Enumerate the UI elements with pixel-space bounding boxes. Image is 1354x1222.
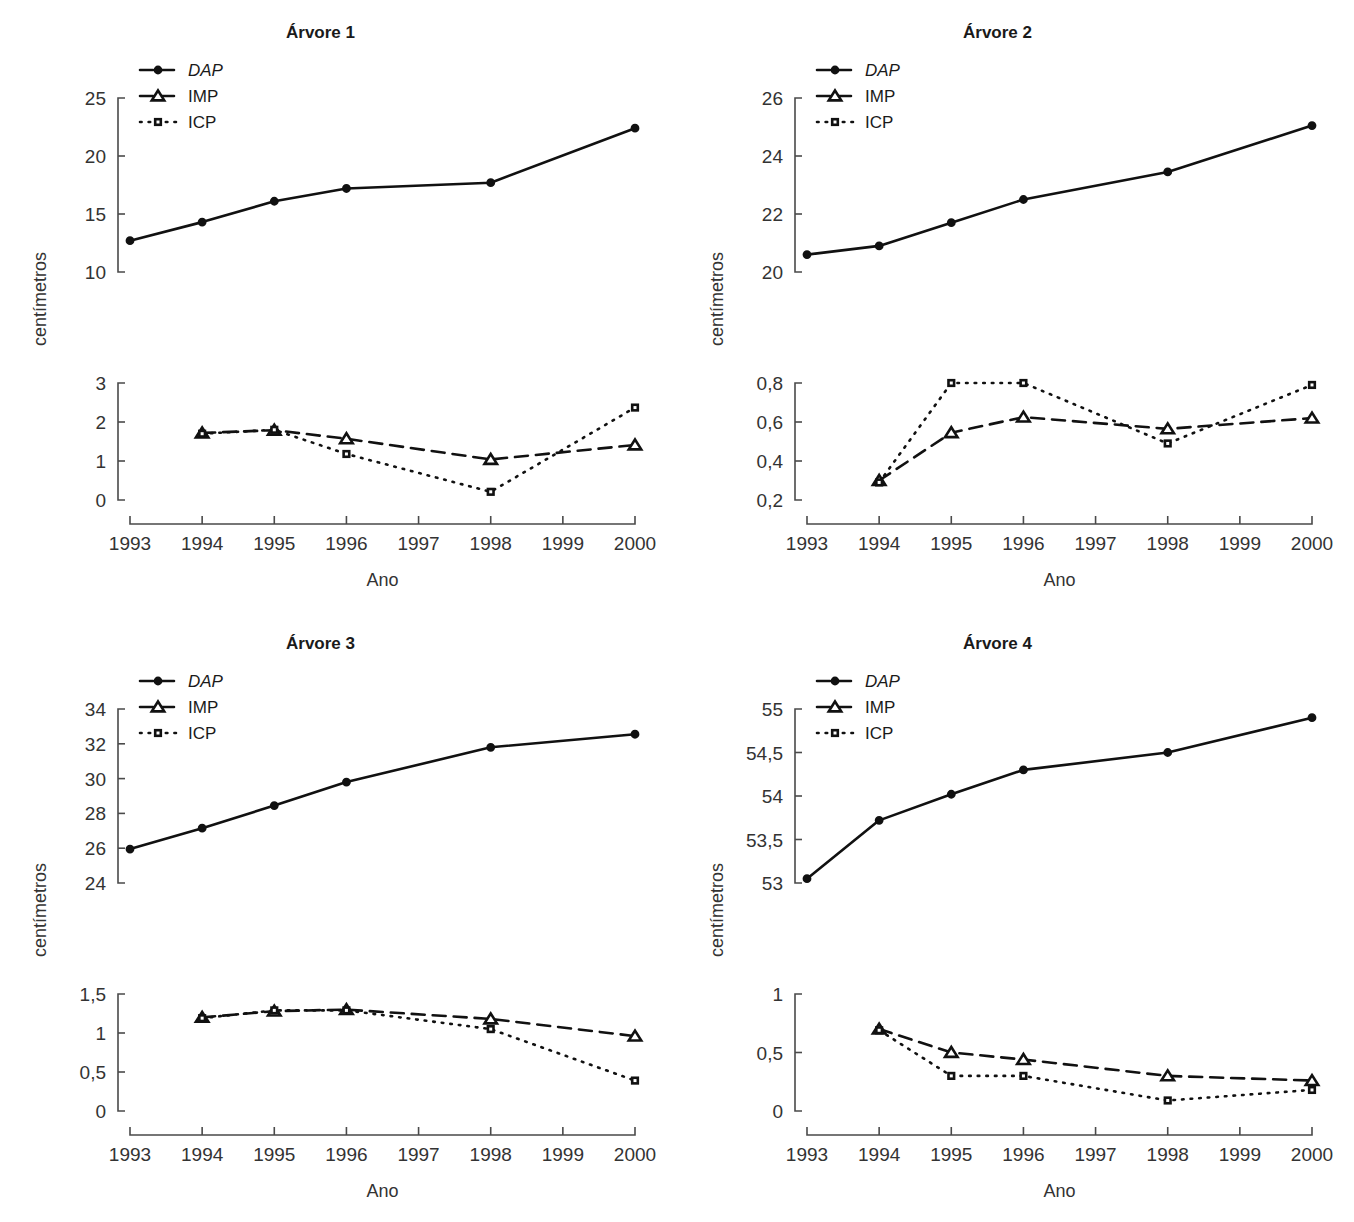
y-axis-upper-label: 10: [85, 262, 106, 283]
data-point-dap-2: [271, 802, 277, 808]
y-axis-upper-label: 25: [85, 88, 106, 109]
y-axis-upper-label: 28: [85, 803, 106, 824]
data-point-dap-3: [343, 779, 349, 785]
y-axis-upper-label: 53,5: [746, 830, 783, 851]
data-point-imp-1: [945, 427, 957, 437]
legend: DAPIMPICP: [817, 61, 901, 132]
x-axis-label: 1998: [470, 533, 512, 554]
data-point-dap-legend: [832, 678, 838, 684]
x-axis-label: 1997: [1074, 533, 1116, 554]
y-axis-title: centímetros: [30, 863, 50, 957]
x-axis-label: 1995: [930, 1144, 972, 1165]
y-axis-lower-label: 0,6: [757, 412, 783, 433]
x-axis-label: 1993: [786, 533, 828, 554]
legend: DAPIMPICP: [140, 672, 224, 743]
data-point-icp-4: [1309, 382, 1315, 388]
y-axis-lower-label: 0,8: [757, 373, 783, 394]
data-point-icp-2: [344, 451, 350, 457]
data-point-dap-legend: [155, 67, 161, 73]
y-axis-lower-label: 1,5: [80, 984, 106, 1005]
data-point-imp-4: [1306, 1075, 1318, 1085]
y-axis-upper-label: 54: [762, 786, 784, 807]
series-dap-line: [807, 126, 1312, 255]
data-point-icp-0: [199, 1015, 205, 1021]
series-imp: [873, 1024, 1318, 1085]
legend-item-imp[interactable]: IMP: [140, 87, 218, 106]
y-axis-upper-spine: [118, 98, 125, 272]
x-axis-label: 1997: [397, 533, 439, 554]
x-axis: 19931994199519961997199819992000: [109, 1127, 656, 1165]
data-point-imp-legend: [829, 702, 841, 712]
legend-item-icp[interactable]: ICP: [140, 724, 216, 743]
legend-item-dap[interactable]: DAP: [817, 61, 901, 80]
x-axis-label: 1994: [181, 533, 224, 554]
data-point-icp-2: [1021, 380, 1027, 386]
data-point-imp-3: [484, 454, 496, 464]
x-axis-label: 1999: [542, 1144, 584, 1165]
x-axis: 19931994199519961997199819992000: [786, 1127, 1333, 1165]
y-axis-lower-label: 3: [95, 373, 106, 394]
chart-svg-4: Árvore 4DAPIMPICP5353,55454,55500,511993…: [677, 611, 1354, 1222]
legend-label-icp: ICP: [865, 724, 893, 743]
data-point-icp-legend: [832, 730, 838, 736]
legend-item-dap[interactable]: DAP: [817, 672, 901, 691]
data-point-dap-legend: [832, 67, 838, 73]
legend-label-dap: DAP: [188, 672, 224, 691]
legend-item-imp[interactable]: IMP: [817, 87, 895, 106]
series-imp: [196, 1004, 641, 1040]
series-dap: [804, 122, 1315, 257]
legend-item-icp[interactable]: ICP: [140, 113, 216, 132]
data-point-dap-3: [343, 185, 349, 191]
x-axis-label: 1999: [542, 533, 584, 554]
x-axis-label: 2000: [1291, 533, 1333, 554]
chart-svg-3: Árvore 3DAPIMPICP24262830323400,511,5199…: [0, 611, 677, 1222]
x-axis-title: Ano: [366, 1181, 398, 1201]
x-axis-spine: [130, 516, 635, 524]
series-icp: [876, 1027, 1314, 1103]
legend-item-icp[interactable]: ICP: [817, 113, 893, 132]
legend-item-imp[interactable]: IMP: [817, 698, 895, 717]
data-point-icp-4: [632, 405, 638, 411]
y-axis-upper-label: 24: [762, 146, 784, 167]
x-axis-label: 1993: [109, 1144, 151, 1165]
chart-title: Árvore 3: [286, 634, 355, 653]
legend-item-dap[interactable]: DAP: [140, 61, 224, 80]
legend-item-dap[interactable]: DAP: [140, 672, 224, 691]
series-imp-line: [202, 1010, 635, 1037]
y-axis-lower-label: 0: [95, 1101, 106, 1122]
data-point-dap-4: [488, 179, 494, 185]
legend-item-icp[interactable]: ICP: [817, 724, 893, 743]
series-icp: [876, 380, 1314, 485]
y-axis-lower: 00,511,5: [80, 984, 125, 1122]
legend-label-dap: DAP: [188, 61, 224, 80]
x-axis-spine: [807, 516, 1312, 524]
x-axis-label: 1998: [1147, 533, 1189, 554]
y-axis-upper-label: 54,5: [746, 743, 783, 764]
x-axis-label: 1996: [1002, 533, 1044, 554]
series-icp-line: [202, 1010, 635, 1080]
legend-item-imp[interactable]: IMP: [140, 698, 218, 717]
data-point-dap-4: [1165, 169, 1171, 175]
y-axis-upper-label: 24: [85, 873, 107, 894]
figure-grid: Árvore 1DAPIMPICP10152025012319931994199…: [0, 0, 1354, 1222]
y-axis-upper-spine: [118, 709, 125, 883]
data-point-dap-1: [876, 817, 882, 823]
y-axis-lower: 0123: [95, 373, 125, 511]
data-point-imp-3: [1161, 423, 1173, 433]
y-axis-upper-label: 15: [85, 204, 106, 225]
data-point-dap-4: [1165, 749, 1171, 755]
data-point-dap-0: [804, 875, 810, 881]
x-axis-label: 1994: [858, 1144, 901, 1165]
data-point-icp-1: [271, 1008, 277, 1014]
y-axis-upper: 20222426: [762, 88, 802, 283]
x-axis-label: 1997: [397, 1144, 439, 1165]
x-axis-title: Ano: [366, 570, 398, 590]
series-imp: [873, 412, 1318, 485]
x-axis-label: 1996: [325, 533, 367, 554]
chart-svg-2: Árvore 2DAPIMPICP202224260,20,40,60,8199…: [677, 0, 1354, 611]
data-point-icp-1: [948, 380, 954, 386]
data-point-icp-0: [876, 480, 882, 486]
series-dap-line: [130, 734, 635, 849]
data-point-icp-2: [1021, 1073, 1027, 1079]
y-axis-upper-label: 55: [762, 699, 783, 720]
